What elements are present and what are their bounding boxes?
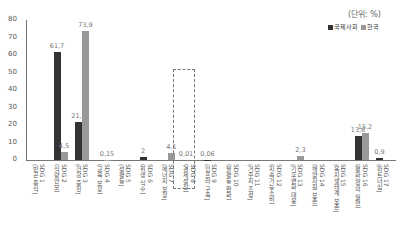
bar-international <box>75 122 82 160</box>
value-label: 0,06 <box>193 150 223 158</box>
value-label: 2 <box>128 147 158 155</box>
y-tick-label: 70 <box>0 33 17 41</box>
x-tick-label: SDG 10(불평등 완화) <box>226 164 240 201</box>
bar-korea <box>61 152 68 160</box>
y-tick-label: 40 <box>0 85 17 93</box>
bar-international <box>376 158 383 160</box>
value-label: 2,3 <box>286 146 316 154</box>
x-tick-label: SDG 4(교육 보장) <box>97 164 111 195</box>
value-label: 0,15 <box>92 150 122 158</box>
bar-korea <box>297 156 304 160</box>
x-axis <box>26 160 396 161</box>
x-tick-label: SDG 9(인프라 구축) <box>204 164 218 201</box>
x-tick-label: SDG 2(식량안보) <box>54 164 68 193</box>
y-tick-label: 10 <box>0 138 17 146</box>
x-tick-label: SDG 16(평화/정의 실현) <box>355 164 369 209</box>
legend-swatch <box>361 25 366 30</box>
x-tick-label: SDG 8(경제성장) <box>183 164 197 193</box>
value-label: 21,5 <box>64 112 94 120</box>
y-axis <box>26 20 27 160</box>
x-tick-label: SDG 15(육지생태계 보존) <box>333 164 347 213</box>
value-label: 15,2 <box>350 123 380 131</box>
legend-item: 한국 <box>361 22 379 31</box>
bar-korea <box>82 31 89 160</box>
y-tick-label: 50 <box>0 68 17 76</box>
bar-international <box>140 157 147 161</box>
value-label: 61,7 <box>42 42 72 50</box>
y-tick-label: 80 <box>0 15 17 23</box>
y-tick-label: 0 <box>0 155 17 163</box>
bar-international <box>355 136 362 160</box>
legend-item: 국제사회 <box>328 22 358 31</box>
x-tick-label: SDG 11(거주지 조성) <box>247 164 261 201</box>
legend-swatch <box>328 25 333 30</box>
y-tick-label: 30 <box>0 103 17 111</box>
x-tick-label: SDG 13(기후변화 대응) <box>290 164 304 207</box>
value-label: 73,9 <box>71 21 101 29</box>
x-tick-label: SDG 1(빈곤 종식) <box>32 164 46 195</box>
sdg-bar-chart: (단위: %) 국제사회한국 01020304050607080 61,74,5… <box>0 0 399 226</box>
x-tick-label: SDG 3(건강 증진) <box>75 164 89 195</box>
x-tick-label: SDG 12(지속가능소비) <box>269 164 283 205</box>
value-label: 0,9 <box>365 148 395 156</box>
y-tick-label: 20 <box>0 120 17 128</box>
y-tick-label: 60 <box>0 50 17 58</box>
x-tick-label: SDG 6(위생 식수) <box>140 164 154 195</box>
x-tick-label: SDG 7(에너지 보장) <box>161 164 175 201</box>
x-tick-label: SDG 14(해양자원 보존) <box>312 164 326 207</box>
x-tick-label: SDG 5(성평등) <box>118 164 132 187</box>
unit-label: (단위: %) <box>348 8 381 19</box>
x-tick-label: SDG 17(파트너십) <box>376 164 390 193</box>
legend: 국제사회한국 <box>328 22 379 31</box>
